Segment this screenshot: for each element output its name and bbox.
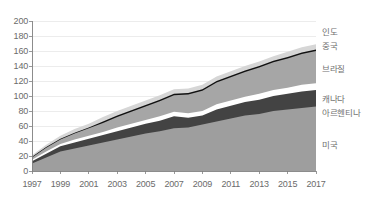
- series-label-argentina: 아르헨티나: [322, 109, 361, 118]
- series-label-china: 중국: [322, 42, 337, 51]
- series-label-brazil: 브라질: [322, 65, 345, 74]
- stacked-area-chart: 200 180 160 140 120 100 80 60 40 20 0: [0, 0, 368, 203]
- x-tick-2017: 2017: [298, 180, 334, 189]
- plot-area: [0, 0, 368, 203]
- series-label-india: 인도: [322, 28, 337, 37]
- series-label-canada: 캐나다: [322, 95, 345, 104]
- series-label-usa: 미국: [322, 141, 337, 150]
